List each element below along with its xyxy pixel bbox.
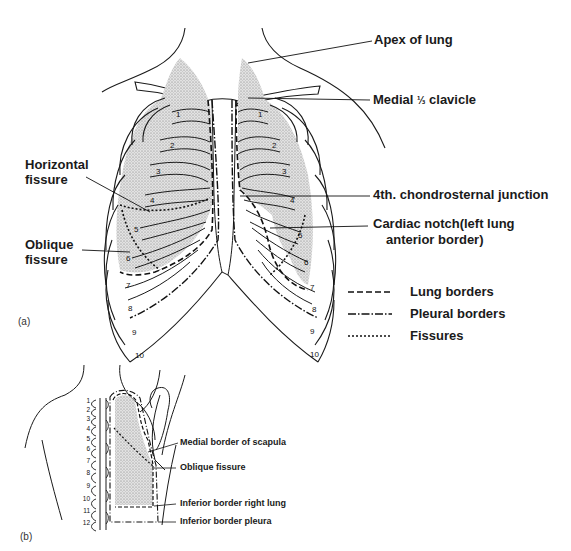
label-apex-of-lung: Apex of lung [374,32,453,48]
label-cardiac-notch-1: Cardiac notch(left lung [373,216,515,232]
left-costal-margin [228,275,334,362]
legend-fissures: Fissures [410,328,463,344]
svg-text:1: 1 [176,110,181,119]
right-lung-posterior [115,395,153,505]
svg-text:6: 6 [304,258,309,267]
label-clavicle-pre: Medial [373,92,417,107]
label-inferior-border-pleura: Inferior border pleura [180,516,272,527]
svg-text:8: 8 [312,305,317,314]
svg-text:10: 10 [83,495,91,502]
label-cardiac-notch-2: anterior border) [386,232,484,248]
label-clavicle-post: clavicle [425,92,476,107]
label-inferior-border-right-lung: Inferior border right lung [180,498,286,509]
svg-text:4: 4 [290,196,295,205]
label-oblique-fissure-1: Oblique [25,237,73,253]
svg-text:2: 2 [86,406,90,413]
label-oblique-fissure-2: fissure [25,252,68,268]
svg-text:7: 7 [126,281,131,290]
svg-text:11: 11 [83,507,90,514]
legend-pleural-borders: Pleural borders [410,306,505,322]
anatomy-diagram: 1 2 3 4 5 6 7 8 9 10 1 2 3 4 5 6 7 8 9 1… [0,0,571,551]
panel-a-tag: (a) [18,316,30,327]
svg-text:6: 6 [126,254,131,263]
svg-text:10: 10 [135,351,144,360]
svg-text:9: 9 [310,327,315,336]
label-horizontal-fissure-1: Horizontal [25,157,89,173]
svg-text:6: 6 [86,445,90,452]
svg-text:7: 7 [310,283,315,292]
svg-text:9: 9 [86,482,90,489]
label-medial-third-clavicle: Medial ⅓ clavicle [373,92,476,109]
svg-text:1: 1 [86,397,90,404]
svg-text:5: 5 [86,435,90,442]
legend-lung-borders: Lung borders [410,284,494,300]
svg-text:3: 3 [86,415,90,422]
svg-text:8: 8 [128,304,133,313]
panel-b-tag: (b) [20,531,32,542]
svg-text:3: 3 [282,167,287,176]
svg-text:2: 2 [170,141,175,150]
svg-text:4: 4 [86,425,90,432]
svg-text:3: 3 [156,167,161,176]
svg-text:9: 9 [132,328,137,337]
svg-text:1: 1 [258,110,263,119]
label-medial-border-scapula: Medial border of scapula [180,437,286,448]
svg-text:7: 7 [86,457,90,464]
svg-text:10: 10 [310,350,319,359]
svg-text:2: 2 [272,141,277,150]
svg-text:12: 12 [83,519,91,526]
svg-text:8: 8 [86,469,90,476]
svg-text:4: 4 [150,196,155,205]
label-horizontal-fissure-2: fissure [25,172,68,188]
label-oblique-fissure-b: Oblique fissure [180,462,246,473]
svg-text:5: 5 [298,231,303,240]
svg-text:5: 5 [134,225,139,234]
panel-a-thorax [102,28,385,362]
label-4th-chondrosternal-junction: 4th. chondrosternal junction [373,187,549,203]
